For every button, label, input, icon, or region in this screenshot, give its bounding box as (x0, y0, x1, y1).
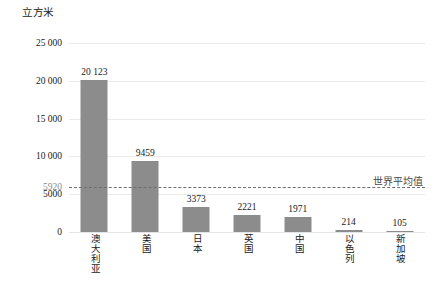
x-axis-label-slot: 新加坡 (374, 234, 425, 268)
bar-group: 20 123 (69, 43, 120, 232)
y-axis-tick-label: 25 000 (8, 38, 62, 48)
world-average-line (69, 187, 425, 188)
x-axis-label-slot: 美国 (120, 234, 171, 258)
y-axis-tick-labels: 0500010 00015 00020 00025 0005920 (0, 43, 62, 232)
bar-value-label: 214 (342, 217, 356, 227)
bar-group: 3373 (171, 43, 222, 232)
bar-value-label: 9459 (136, 148, 155, 158)
bar-value-label: 105 (392, 218, 406, 228)
plot-area: 20 1239459337322211971214105 世界平均值 (69, 43, 425, 232)
bar-group: 2221 (222, 43, 273, 232)
x-axis-category-labels: 澳大利亚美国日本英国中国以色列新加坡 (69, 234, 425, 302)
bar-value-label: 20 123 (81, 67, 107, 77)
x-axis-label-slot: 中国 (272, 234, 323, 258)
x-axis-label-slot: 英国 (222, 234, 273, 258)
bar-chart: 立方米 0500010 00015 00020 00025 0005920 20… (0, 0, 443, 302)
y-axis-tick-label: 0 (8, 227, 62, 237)
y-axis-tick-label: 20 000 (8, 76, 62, 86)
x-axis-label-slot: 以色列 (323, 234, 374, 268)
bar-group: 214 (323, 43, 374, 232)
bar-value-label: 1971 (288, 204, 307, 214)
x-axis-category-label: 澳大利亚 (89, 234, 101, 274)
bar (233, 215, 260, 232)
x-axis-label-slot: 日本 (171, 234, 222, 258)
world-average-label: 世界平均值 (373, 173, 423, 188)
x-axis-category-label: 美国 (140, 234, 152, 254)
x-axis-label-slot: 澳大利亚 (69, 234, 120, 278)
bar-group: 1971 (272, 43, 323, 232)
bar (183, 207, 210, 232)
world-average-tick-label: 5920 (8, 182, 62, 192)
bar (81, 80, 108, 232)
y-axis-tick-label: 15 000 (8, 114, 62, 124)
bar-value-label: 2221 (237, 202, 256, 212)
x-axis-category-label: 新加坡 (394, 234, 406, 264)
x-axis-category-label: 以色列 (343, 234, 355, 264)
x-axis-category-label: 英国 (241, 234, 253, 254)
bar (132, 161, 159, 233)
bar-group: 9459 (120, 43, 171, 232)
bar (386, 231, 413, 232)
y-axis-tick-label: 10 000 (8, 151, 62, 161)
bar-value-label: 3373 (187, 194, 206, 204)
bar (284, 217, 311, 232)
bar-series: 20 1239459337322211971214105 (69, 43, 425, 232)
x-axis-category-label: 中国 (292, 234, 304, 254)
y-axis-title: 立方米 (22, 4, 54, 19)
gridline (69, 232, 425, 233)
bar-group: 105 (374, 43, 425, 232)
x-axis-category-label: 日本 (190, 234, 202, 254)
bar (335, 230, 362, 232)
